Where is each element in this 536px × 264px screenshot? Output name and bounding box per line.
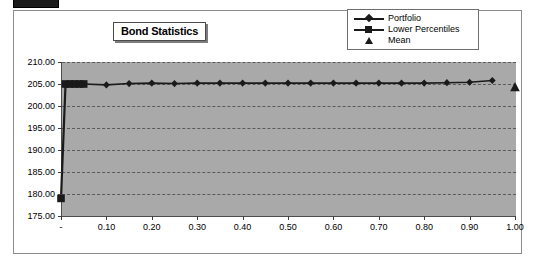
x-axis-tick xyxy=(515,216,516,220)
y-axis-tick xyxy=(58,62,62,63)
legend-label: Portfolio xyxy=(388,13,421,24)
x-axis-tick-label: 0.90 xyxy=(447,222,493,232)
x-axis-tick-label: - xyxy=(38,222,84,232)
legend-item-portfolio[interactable]: Portfolio xyxy=(352,13,474,24)
series-lower-percentiles xyxy=(57,80,87,202)
legend-label: Lower Percentiles xyxy=(388,24,460,35)
x-axis-tick xyxy=(470,216,471,220)
square-marker-icon xyxy=(352,24,386,35)
legend-label: Mean xyxy=(388,35,411,46)
y-axis-tick-label: 205.00 xyxy=(9,80,55,89)
triangle-marker-icon xyxy=(352,35,386,46)
x-axis-tick xyxy=(61,216,62,220)
y-axis-tick-label: 180.00 xyxy=(9,190,55,199)
x-axis-tick-label: 0.70 xyxy=(356,222,402,232)
chart-title: Bond Statistics xyxy=(113,22,206,41)
x-axis-tick xyxy=(243,216,244,220)
x-axis-tick xyxy=(424,216,425,220)
data-series-layer xyxy=(61,62,515,216)
legend-item-lower-percentiles[interactable]: Lower Percentiles xyxy=(352,24,474,35)
y-axis-tick-label: 210.00 xyxy=(9,58,55,67)
x-axis-tick-label: 0.10 xyxy=(83,222,129,232)
diamond-marker-icon xyxy=(352,13,386,24)
x-axis-tick-label: 0.60 xyxy=(310,222,356,232)
x-axis-tick xyxy=(197,216,198,220)
y-axis-tick-label: 175.00 xyxy=(9,212,55,221)
y-axis-tick-label: 185.00 xyxy=(9,168,55,177)
y-axis-tick xyxy=(58,150,62,151)
x-axis-tick xyxy=(106,216,107,220)
x-axis-tick-label: 0.80 xyxy=(401,222,447,232)
x-axis-tick xyxy=(379,216,380,220)
x-axis-tick-label: 0.40 xyxy=(220,222,266,232)
x-axis-tick-label: 0.30 xyxy=(174,222,220,232)
series-portfolio xyxy=(80,77,495,89)
y-axis-tick-label: 200.00 xyxy=(9,102,55,111)
y-axis-tick xyxy=(58,106,62,107)
y-axis-tick-label: 190.00 xyxy=(9,146,55,155)
y-axis-tick xyxy=(58,128,62,129)
y-axis-tick-label: 195.00 xyxy=(9,124,55,133)
x-axis-tick-label: 0.20 xyxy=(129,222,175,232)
top-chrome-fragment xyxy=(13,0,59,8)
y-axis: 175.00180.00185.00190.00195.00200.00205.… xyxy=(6,62,55,216)
x-axis: -0.100.200.300.400.500.600.700.800.901.0… xyxy=(61,222,515,236)
y-axis-tick xyxy=(58,84,62,85)
x-axis-tick xyxy=(152,216,153,220)
y-axis-tick xyxy=(58,194,62,195)
x-axis-tick-label: 0.50 xyxy=(265,222,311,232)
legend-item-mean[interactable]: Mean xyxy=(352,35,474,46)
x-axis-tick xyxy=(333,216,334,220)
chart-legend[interactable]: Portfolio Lower Percentiles Mean xyxy=(347,9,479,50)
y-axis-tick xyxy=(58,172,62,173)
x-axis-tick xyxy=(288,216,289,220)
x-axis-tick-label: 1.00 xyxy=(492,222,536,232)
